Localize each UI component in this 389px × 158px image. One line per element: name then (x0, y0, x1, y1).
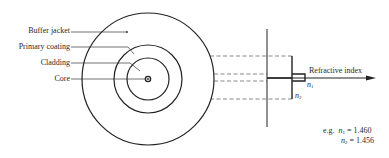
label-refractive-index: Refractive index (309, 67, 362, 75)
example-n1-value: = 1.460 (347, 126, 372, 135)
n2-subscript: 2 (299, 95, 302, 100)
example-n2-subscript: 2 (345, 140, 348, 145)
n1-subscript: 1 (311, 84, 314, 89)
label-buffer-jacket: Buffer jacket (28, 27, 70, 35)
label-cladding: Cladding (41, 59, 70, 67)
fibre-diagram: Buffer jacket Primary coating Cladding C… (0, 0, 389, 158)
example-n1-subscript: 1 (343, 130, 346, 135)
label-n2: n2 (295, 92, 302, 100)
label-core: Core (54, 75, 70, 83)
label-n1: n1 (307, 81, 314, 89)
leader-dot-buffer-jacket (126, 31, 128, 33)
example-n2-value: = 1.456 (350, 136, 375, 145)
example-line-1: e.g. n1 = 1.460 (323, 127, 372, 135)
example-prefix: e.g. (323, 126, 335, 135)
core-dot (147, 78, 149, 80)
arrow-head-icon (366, 76, 376, 81)
example-line-2: n2 = 1.456 (341, 137, 374, 145)
label-primary-coating: Primary coating (19, 43, 70, 51)
